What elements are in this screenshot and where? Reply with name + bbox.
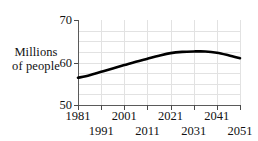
y-tick-mark bbox=[74, 105, 78, 106]
x-tick-label: 1991 bbox=[89, 125, 114, 138]
population-series-line bbox=[78, 20, 240, 105]
x-tick-mark bbox=[194, 105, 195, 110]
x-tick-mark bbox=[101, 105, 102, 110]
x-tick-label: 2011 bbox=[135, 125, 160, 138]
y-axis-title-line-1: Millions bbox=[6, 45, 66, 59]
x-tick-label: 1981 bbox=[66, 110, 91, 123]
population-line-chart: Millions of people 506070 19811991200120… bbox=[0, 0, 258, 141]
gridline-vertical bbox=[240, 20, 241, 105]
x-tick-label: 2021 bbox=[158, 110, 183, 123]
x-tick-label: 2051 bbox=[228, 125, 253, 138]
series-path bbox=[78, 51, 240, 77]
x-tick-mark bbox=[240, 105, 241, 110]
plot-area: 506070 19811991200120112021203120412051 bbox=[78, 20, 240, 105]
y-tick-label: 60 bbox=[60, 56, 73, 69]
x-tick-label: 2041 bbox=[204, 110, 229, 123]
y-axis-title: Millions of people bbox=[6, 45, 66, 73]
x-axis-spine bbox=[78, 105, 240, 106]
y-axis-title-line-2: of people bbox=[6, 59, 66, 73]
x-tick-label: 2001 bbox=[112, 110, 137, 123]
x-tick-label: 2031 bbox=[181, 125, 206, 138]
x-tick-mark bbox=[147, 105, 148, 110]
y-tick-label: 70 bbox=[60, 14, 73, 27]
